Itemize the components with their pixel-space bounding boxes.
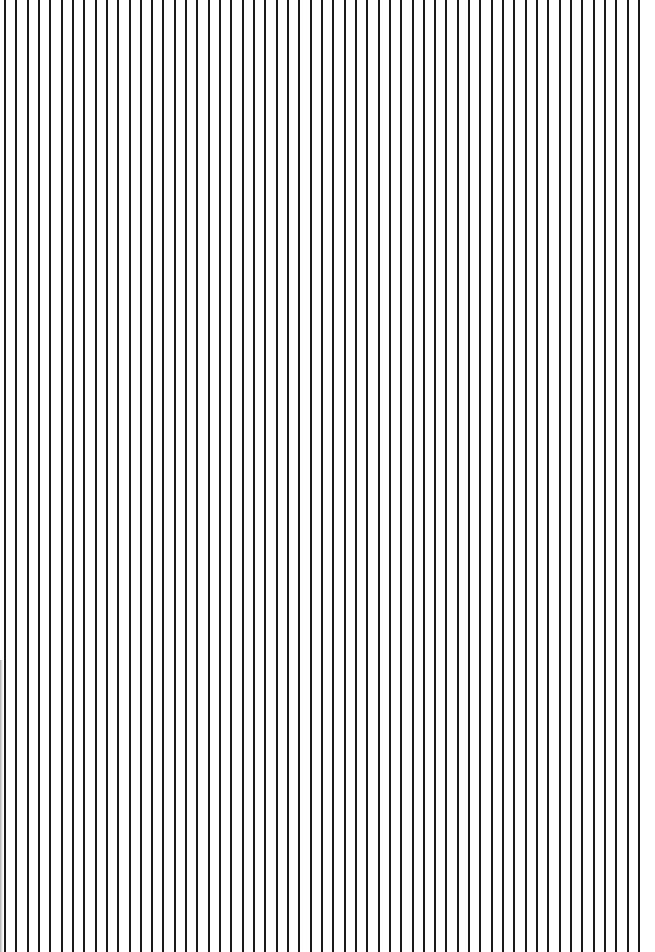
stripe-line (117, 0, 119, 952)
stripe-line (4, 0, 6, 952)
stripe-line (344, 0, 346, 952)
stripe-line (615, 0, 617, 952)
stripe-line (298, 0, 300, 952)
stripe-line (219, 0, 221, 952)
stripe-line (162, 0, 164, 952)
stripe-line (627, 0, 629, 952)
stripe-line (423, 0, 425, 952)
stripe-line (208, 0, 210, 952)
stripe-line (49, 0, 51, 952)
stripe-line (559, 0, 561, 952)
stripe-line (151, 0, 153, 952)
stripe-line (604, 0, 606, 952)
stripe-line (479, 0, 481, 952)
stripe-line (196, 0, 198, 952)
stripe-line (400, 0, 402, 952)
stripe-line (525, 0, 527, 952)
stripe-line (106, 0, 108, 952)
stripe-line (61, 0, 63, 952)
stripe-line (83, 0, 85, 952)
stripe-line (310, 0, 312, 952)
stripe-line (264, 0, 266, 952)
stripe-line (332, 0, 334, 952)
stripe-line (72, 0, 74, 952)
stripe-line (321, 0, 323, 952)
stripe-line (389, 0, 391, 952)
stripe-line (581, 0, 583, 952)
stripe-line (129, 0, 131, 952)
stripe-line (242, 0, 244, 952)
stripe-line (412, 0, 414, 952)
stripe-line (15, 0, 17, 952)
stripe-line (253, 0, 255, 952)
stripe-line (502, 0, 504, 952)
stripe-line (287, 0, 289, 952)
stripe-line (445, 0, 447, 952)
stripe-line (378, 0, 380, 952)
stripe-line (38, 0, 40, 952)
stripe-line (536, 0, 538, 952)
stripe-line (366, 0, 368, 952)
stripe-line (355, 0, 357, 952)
stripe-line (434, 0, 436, 952)
stripe-line (570, 0, 572, 952)
stripe-line (230, 0, 232, 952)
vertical-stripe-pattern (0, 0, 655, 952)
stripe-line (140, 0, 142, 952)
stripe-line (513, 0, 515, 952)
stripe-line (185, 0, 187, 952)
stripe-line (468, 0, 470, 952)
left-edge-shadow (0, 660, 3, 952)
stripe-line (27, 0, 29, 952)
stripe-line (95, 0, 97, 952)
stripe-line (547, 0, 549, 952)
stripe-line (174, 0, 176, 952)
stripe-line (638, 0, 640, 952)
stripe-line (457, 0, 459, 952)
stripe-line (491, 0, 493, 952)
stripe-line (593, 0, 595, 952)
stripe-line (276, 0, 278, 952)
